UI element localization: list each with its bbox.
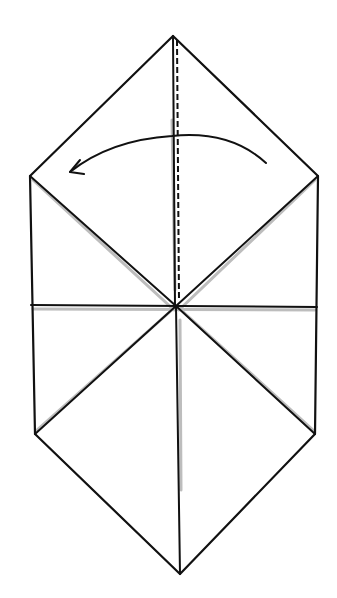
origami-diagram	[0, 0, 337, 598]
lower-left-diagonal	[35, 306, 176, 434]
creases	[30, 36, 318, 574]
fold-arrow-icon	[70, 135, 266, 174]
upper-left-diagonal	[30, 176, 176, 306]
lower-right-diagonal	[176, 306, 315, 434]
diagram-canvas	[0, 0, 337, 598]
upper-right-diagonal	[176, 176, 318, 306]
valley-fold-line	[177, 40, 179, 300]
